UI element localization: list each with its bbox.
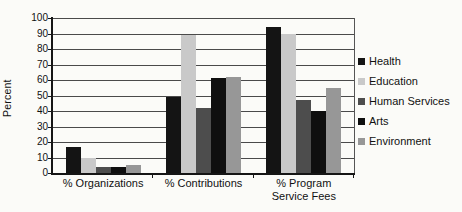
bar-education-contributions (181, 35, 196, 173)
bar-group-contributions (153, 18, 253, 173)
y-tick-mark-50 (48, 96, 53, 97)
y-tick-mark-80 (48, 49, 53, 50)
plot-area (53, 18, 354, 173)
y-tick-label-40: 40 (14, 106, 48, 116)
legend-label-environment: Environment (369, 136, 431, 147)
y-tick-label-70: 70 (14, 60, 48, 70)
legend-label-human-services: Human Services (369, 96, 450, 107)
legend-label-education: Education (369, 76, 418, 87)
y-tick-label-50: 50 (14, 91, 48, 101)
y-axis-title: Percent (1, 58, 14, 138)
bar-group-program-service-fees (254, 18, 354, 173)
y-tick-label-20: 20 (14, 137, 48, 147)
legend-item-human-services: Human Services (358, 96, 450, 107)
x-category-label-program-service-fees: % ProgramService Fees (254, 177, 354, 202)
y-tick-label-10: 10 (14, 153, 48, 163)
bar-environment-program-service-fees (326, 88, 341, 173)
y-tick-mark-90 (48, 34, 53, 35)
y-tick-mark-40 (48, 111, 53, 112)
bar-environment-contributions (226, 77, 241, 173)
y-tick-label-90: 90 (14, 29, 48, 39)
legend-swatch-education (358, 78, 365, 85)
legend-item-arts: Arts (358, 116, 450, 127)
legend-swatch-environment (358, 138, 365, 145)
legend-item-education: Education (358, 76, 450, 87)
legend-label-health: Health (369, 56, 401, 67)
y-tick-mark-10 (48, 158, 53, 159)
y-tick-mark-0 (48, 173, 53, 174)
bar-environment-organizations (126, 165, 141, 173)
bar-arts-program-service-fees (311, 111, 326, 173)
bar-health-program-service-fees (266, 27, 281, 173)
x-axis-line (51, 173, 355, 175)
y-tick-mark-30 (48, 127, 53, 128)
bar-education-program-service-fees (281, 34, 296, 174)
legend-swatch-human-services (358, 98, 365, 105)
legend: HealthEducationHuman ServicesArtsEnviron… (358, 56, 450, 147)
legend-item-health: Health (358, 56, 450, 67)
legend-swatch-health (358, 58, 365, 65)
x-category-label-organizations: % Organizations (53, 177, 153, 190)
legend-item-environment: Environment (358, 136, 450, 147)
legend-swatch-arts (358, 118, 365, 125)
y-tick-mark-70 (48, 65, 53, 66)
bar-arts-contributions (211, 78, 226, 173)
bar-human-services-contributions (196, 108, 211, 173)
y-axis-tick-labels: 0102030405060708090100 (14, 18, 48, 173)
bar-human-services-program-service-fees (296, 100, 311, 173)
y-tick-label-60: 60 (14, 75, 48, 85)
bar-groups (53, 18, 354, 173)
y-tick-label-100: 100 (14, 13, 48, 23)
y-tick-mark-20 (48, 142, 53, 143)
bar-chart-figure: Percent 0102030405060708090100 % Organiz… (0, 0, 462, 212)
x-category-label-contributions: % Contributions (153, 177, 253, 190)
y-tick-label-80: 80 (14, 44, 48, 54)
y-tick-mark-60 (48, 80, 53, 81)
y-tick-mark-100 (48, 18, 53, 19)
y-tick-label-30: 30 (14, 122, 48, 132)
plot-right-border (354, 18, 355, 173)
y-tick-label-0: 0 (14, 168, 48, 178)
bar-health-organizations (66, 147, 81, 173)
bar-health-contributions (166, 97, 181, 173)
bar-group-organizations (53, 18, 153, 173)
bar-education-organizations (81, 158, 96, 174)
legend-label-arts: Arts (369, 116, 389, 127)
